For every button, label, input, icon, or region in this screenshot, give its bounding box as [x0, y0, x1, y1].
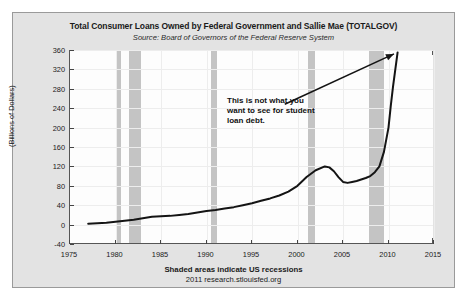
y-tick-label: 80: [37, 181, 65, 190]
chart-subtitle: Source: Board of Governors of the Federa…: [13, 33, 454, 42]
y-tick-label: 280: [37, 84, 65, 93]
gridline-vertical: [434, 50, 435, 243]
x-tick-mark: [115, 240, 116, 244]
y-tick-label: 0: [37, 220, 65, 229]
x-tick-mark: [342, 240, 343, 244]
y-tick-mark: [70, 244, 74, 245]
y-tick-label: 240: [37, 104, 65, 113]
x-tick-mark: [433, 240, 434, 244]
y-tick-mark: [70, 89, 74, 90]
x-tick-label: 2000: [280, 250, 314, 259]
y-tick-label: -40: [37, 240, 65, 249]
y-tick-label: 160: [37, 143, 65, 152]
x-tick-label: 2010: [371, 250, 405, 259]
y-tick-mark: [70, 108, 74, 109]
x-tick-label: 1985: [143, 250, 177, 259]
y-tick-label: 120: [37, 162, 65, 171]
x-tick-label: 2005: [325, 250, 359, 259]
y-tick-mark: [70, 225, 74, 226]
y-tick-label: 40: [37, 201, 65, 210]
chart-annotation: This is not what youwant to see for stud…: [227, 96, 357, 127]
y-tick-mark: [70, 186, 74, 187]
y-tick-label: 360: [37, 46, 65, 55]
y-tick-mark: [70, 205, 74, 206]
y-axis-label: (Billions of Dollars): [7, 85, 16, 147]
y-tick-label: 320: [37, 65, 65, 74]
annotation-arrow: [70, 50, 434, 244]
footer-recession-note: Shaded areas indicate US recessions: [13, 265, 454, 274]
x-tick-mark: [297, 240, 298, 244]
x-tick-mark: [160, 240, 161, 244]
y-tick-mark: [70, 147, 74, 148]
chart-figure: Total Consumer Loans Owned by Federal Go…: [12, 12, 455, 288]
x-tick-label: 1975: [52, 250, 86, 259]
x-tick-label: 1980: [98, 250, 132, 259]
x-tick-mark: [388, 240, 389, 244]
y-tick-mark: [70, 50, 74, 51]
footer-credit: 2011 research.stlouisfed.org: [13, 275, 454, 284]
annotation-line: loan debt.: [227, 116, 357, 126]
annotation-line: want to see for student: [227, 106, 357, 116]
x-tick-mark: [69, 240, 70, 244]
plot-area: [69, 50, 433, 244]
chart-title: Total Consumer Loans Owned by Federal Go…: [13, 21, 454, 31]
x-tick-mark: [206, 240, 207, 244]
y-tick-mark: [70, 166, 74, 167]
y-tick-label: 200: [37, 123, 65, 132]
x-tick-label: 1995: [234, 250, 268, 259]
x-tick-label: 2015: [416, 250, 450, 259]
x-tick-label: 1990: [189, 250, 223, 259]
y-tick-mark: [70, 69, 74, 70]
y-tick-mark: [70, 128, 74, 129]
annotation-line: This is not what you: [227, 96, 357, 106]
x-tick-mark: [251, 240, 252, 244]
